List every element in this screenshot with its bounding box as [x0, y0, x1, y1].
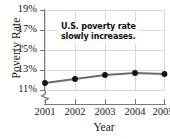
- y-axis-tick-label: 13%: [3, 63, 37, 74]
- x-axis-tick: [45, 99, 46, 105]
- x-axis-tick-label: 2002: [58, 106, 92, 117]
- annotation-line-2: slowly increases.: [61, 32, 136, 42]
- y-axis-tick: [40, 10, 45, 11]
- chart-annotation: U.S. poverty rate slowly increases.: [58, 21, 139, 44]
- gridline-vertical: [164, 10, 165, 90]
- x-axis-tick-label: 2003: [88, 106, 122, 117]
- annotation-line-1: U.S. poverty rate: [61, 22, 136, 32]
- y-axis-tick: [40, 50, 45, 51]
- x-axis-tick: [75, 99, 76, 105]
- chart-figure: Poverty Rate 19% 17% 15% 13% 11% 2001 20…: [0, 0, 170, 139]
- x-axis-tick: [164, 99, 165, 105]
- x-axis-tick: [105, 99, 106, 105]
- x-axis-title: Year: [40, 121, 168, 133]
- y-axis-tick-label: 17%: [3, 23, 37, 34]
- x-axis-tick: [135, 99, 136, 105]
- y-axis-tick-label: 11%: [3, 83, 37, 94]
- gridline-horizontal: [45, 90, 165, 91]
- y-axis-tick-label: 19%: [3, 3, 37, 14]
- y-axis-tick: [40, 70, 45, 71]
- y-axis-tick: [40, 30, 45, 31]
- x-axis-tick-label: 2005: [146, 106, 170, 117]
- y-axis-tick-label: 15%: [3, 43, 37, 54]
- x-axis-tick-label: 2001: [28, 106, 62, 117]
